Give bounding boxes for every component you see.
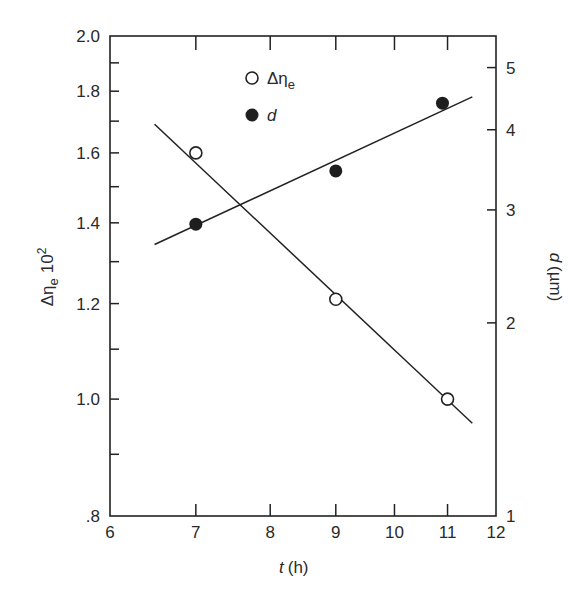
- x-axis-title: t(h): [279, 558, 309, 577]
- y-left-tick-label: 1.0: [76, 390, 100, 409]
- filled-circle-point: [329, 164, 342, 177]
- x-axis-ticks: 6789101112: [105, 36, 505, 542]
- y-right-tick-label: 1: [506, 507, 515, 526]
- y-left-tick-label: 2.0: [76, 27, 100, 46]
- data-points: [189, 97, 453, 405]
- legend-open-circle-icon: [246, 72, 258, 84]
- y-right-axis-title: d(µm): [546, 253, 565, 302]
- filled-circle-point: [436, 97, 449, 110]
- x-tick-label: 12: [487, 523, 506, 542]
- x-tick-label: 8: [265, 523, 274, 542]
- legend: Δηe d: [246, 69, 296, 125]
- y-right-tick-label: 5: [506, 59, 515, 78]
- x-tick-label: 10: [385, 523, 404, 542]
- svg-text:t(h): t(h): [279, 558, 309, 577]
- filled-circle-point: [189, 218, 202, 231]
- chart: 6789101112 .81.01.21.41.61.82.0 12345 Δη…: [0, 0, 584, 604]
- x-tick-label: 9: [331, 523, 340, 542]
- svg-text:Δηe102: Δηe102: [35, 247, 61, 306]
- y-left-tick-label: 1.4: [76, 214, 100, 233]
- legend-filled-circle-icon: [246, 109, 259, 122]
- open-circle-point: [330, 293, 342, 305]
- fit-line-d: [155, 97, 473, 245]
- y-right-tick-label: 4: [506, 121, 515, 140]
- legend-label-delta-eta: Δηe: [267, 69, 295, 92]
- x-tick-label: 11: [439, 523, 457, 542]
- legend-label-d: d: [267, 106, 277, 125]
- y-right-tick-label: 3: [506, 201, 515, 220]
- y-left-tick-label: 1.6: [76, 144, 100, 163]
- open-circle-point: [190, 147, 202, 159]
- svg-text:d(µm): d(µm): [546, 253, 565, 302]
- fit-lines: [155, 97, 473, 423]
- y-left-tick-label: .8: [86, 507, 100, 526]
- x-tick-label: 7: [191, 523, 200, 542]
- y-right-axis-ticks: 12345: [487, 59, 515, 526]
- y-left-axis-title: Δηe102: [35, 247, 61, 306]
- open-circle-point: [442, 393, 454, 405]
- y-left-tick-label: 1.2: [76, 295, 100, 314]
- y-right-tick-label: 2: [506, 314, 515, 333]
- fit-line-delta-eta: [155, 124, 473, 423]
- y-left-axis-ticks: .81.01.21.41.61.82.0: [76, 27, 119, 526]
- x-tick-label: 6: [105, 523, 114, 542]
- y-left-tick-label: 1.8: [76, 82, 100, 101]
